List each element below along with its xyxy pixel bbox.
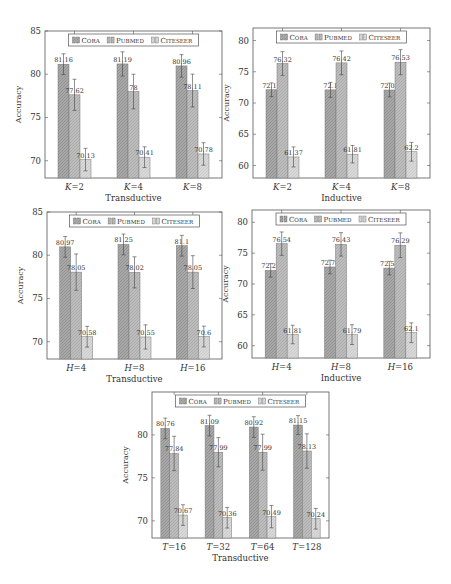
svg-text:70.36: 70.36 <box>218 510 237 518</box>
svg-text:70.24: 70.24 <box>306 511 325 519</box>
svg-text:77.84: 77.84 <box>165 445 184 453</box>
legend: CORAPUBMEDCITESEER <box>176 395 306 407</box>
svg-text:70.49: 70.49 <box>262 509 281 517</box>
svg-text:70.67: 70.67 <box>174 507 193 515</box>
svg-text:81.15: 81.15 <box>289 417 308 425</box>
svg-text:77.99: 77.99 <box>253 444 272 452</box>
svg-text:CORA: CORA <box>189 398 208 406</box>
svg-text:CITESEER: CITESEER <box>268 398 300 406</box>
svg-text:Accuracy: Accuracy <box>121 446 130 485</box>
svg-text:Transductive: Transductive <box>212 553 268 563</box>
svg-text:77.99: 77.99 <box>209 444 228 452</box>
svg-text:80.76: 80.76 <box>156 420 175 428</box>
svg-text:80.92: 80.92 <box>244 419 263 427</box>
svg-text:T=128: T=128 <box>292 542 321 552</box>
svg-text:T=64: T=64 <box>251 542 275 552</box>
svg-text:80: 80 <box>137 430 148 440</box>
svg-text:75: 75 <box>137 473 148 483</box>
svg-text:PUBMED: PUBMED <box>223 398 251 406</box>
svg-text:T=16: T=16 <box>162 542 186 552</box>
svg-text:81.09: 81.09 <box>200 418 219 426</box>
svg-text:78.13: 78.13 <box>298 443 317 451</box>
svg-text:70: 70 <box>137 516 148 526</box>
svg-text:T=32: T=32 <box>207 542 231 552</box>
